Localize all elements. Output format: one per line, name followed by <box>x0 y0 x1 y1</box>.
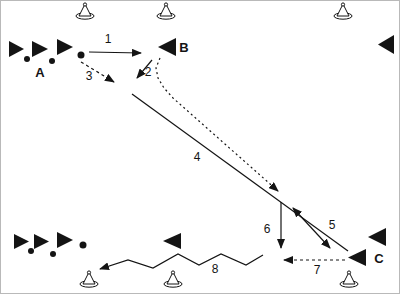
cone-top-3 <box>334 3 352 19</box>
cone-bottom-2 <box>164 271 182 287</box>
label-step-8: 8 <box>212 263 219 275</box>
label-step-3: 3 <box>86 70 93 82</box>
label-b: B <box>179 41 188 54</box>
pointer-bottom-middle-icon <box>163 233 181 249</box>
flock-bird-icon <box>9 41 24 57</box>
label-step-7: 7 <box>314 264 321 276</box>
flock-bird-icon <box>57 39 73 55</box>
path-8 <box>100 254 263 269</box>
cone-bottom-3 <box>340 271 358 287</box>
ethology-diagram: A B C 1 2 3 4 5 6 7 8 <box>0 0 400 294</box>
path-5 <box>293 208 330 248</box>
path-4 <box>132 94 348 251</box>
label-step-6: 6 <box>264 223 271 235</box>
flock-top-left <box>9 39 85 64</box>
flock-dot <box>28 248 34 254</box>
path-1 <box>89 52 141 53</box>
pointer-c-upper-icon <box>368 228 386 246</box>
flock-dot <box>80 242 87 249</box>
pointer-c-lower-icon <box>348 249 366 266</box>
label-a: A <box>35 66 44 79</box>
pointer-top-right-icon <box>378 35 394 54</box>
flock-bird-icon <box>32 41 48 57</box>
figure-canvas <box>1 1 400 294</box>
flock-bird-icon <box>57 232 73 248</box>
pointer-b-icon <box>158 38 176 56</box>
cone-top-1 <box>76 3 94 19</box>
label-step-1: 1 <box>105 33 112 45</box>
flock-dot <box>78 52 85 59</box>
flock-bird-icon <box>14 234 29 249</box>
flock-bottom-left <box>14 232 87 257</box>
label-step-5: 5 <box>329 219 336 231</box>
flock-dot <box>24 56 30 62</box>
cone-bottom-1 <box>80 271 98 287</box>
flock-dot <box>49 58 55 64</box>
label-step-2: 2 <box>145 66 152 78</box>
flock-bird-icon <box>34 234 49 249</box>
flock-dot <box>50 251 56 257</box>
cone-top-2 <box>157 3 175 19</box>
label-c: C <box>374 252 383 265</box>
label-step-4: 4 <box>194 151 201 163</box>
